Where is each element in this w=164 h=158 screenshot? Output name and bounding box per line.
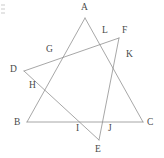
vertex-label-k: K — [126, 50, 133, 60]
vertex-label-d: D — [10, 65, 17, 75]
vertex-label-g: G — [46, 45, 53, 55]
edges-group — [24, 18, 143, 140]
geometry-figure: ABCDEFGHIJKL — [0, 0, 164, 158]
vertex-label-e: E — [95, 145, 101, 155]
vertex-label-b: B — [14, 118, 20, 128]
vertex-label-f: F — [122, 26, 127, 36]
vertex-label-l: L — [102, 26, 108, 36]
segment-ac — [85, 18, 143, 122]
vertex-label-a: A — [81, 3, 88, 13]
vertex-label-i: I — [76, 124, 79, 134]
figure-canvas — [0, 0, 164, 158]
vertex-label-c: C — [147, 118, 153, 128]
segment-ab — [27, 18, 85, 122]
vertex-label-h: H — [29, 81, 36, 91]
vertex-label-j: J — [108, 124, 112, 134]
